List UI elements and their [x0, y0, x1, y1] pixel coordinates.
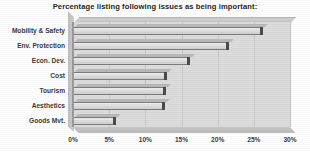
bar-end-cap-4	[163, 87, 166, 95]
y-axis-line	[72, 22, 74, 127]
bar-body-1	[73, 42, 229, 50]
x-tick-label-25: 25%	[247, 136, 260, 143]
y-category-label-1: Env. Protection	[17, 41, 65, 48]
gridline-30	[290, 22, 291, 127]
y-category-label-0: Mobility & Safety	[12, 26, 65, 33]
bar-3	[73, 72, 167, 80]
bar-end-cap-2	[187, 57, 190, 65]
bar-body-0	[73, 27, 263, 35]
y-category-label-4: Tourism	[39, 86, 65, 93]
x-tick-label-30: 30%	[283, 136, 296, 143]
gridline-20	[218, 22, 219, 127]
bar-end-cap-0	[260, 27, 263, 35]
bar-end-cap-6	[113, 117, 116, 125]
x-tick-label-10: 10%	[139, 136, 152, 143]
bar-end-cap-5	[162, 102, 165, 110]
bar-5	[73, 102, 165, 110]
bar-4	[73, 87, 166, 95]
x-tick-label-20: 20%	[211, 136, 224, 143]
bar-2	[73, 57, 190, 65]
y-category-label-2: Econ. Dev.	[32, 56, 65, 63]
bar-end-cap-1	[226, 42, 229, 50]
gridline-25	[254, 22, 255, 127]
plot-floor-face-3d	[73, 127, 295, 133]
bar-1	[73, 42, 229, 50]
bar-end-cap-3	[164, 72, 167, 80]
y-category-label-5: Aesthetics	[32, 101, 65, 108]
y-axis-category-labels: Mobility & SafetyEnv. ProtectionEcon. De…	[0, 22, 68, 127]
plot-area	[73, 22, 291, 127]
y-category-label-6: Goods Mvt.	[29, 116, 65, 123]
bar-6	[73, 117, 116, 125]
x-axis-tick-labels: 0%5%10%15%20%25%30%	[0, 136, 310, 148]
bar-body-6	[73, 117, 116, 125]
bar-body-2	[73, 57, 190, 65]
y-category-label-3: Cost	[50, 71, 65, 78]
x-tick-label-5: 5%	[104, 136, 114, 143]
bar-0	[73, 27, 263, 35]
x-tick-label-0: 0%	[68, 136, 78, 143]
bar-chart: Percentage listing following issues as b…	[0, 0, 310, 151]
bar-body-5	[73, 102, 165, 110]
bar-body-3	[73, 72, 167, 80]
gridline-15	[182, 22, 183, 127]
x-tick-label-15: 15%	[175, 136, 188, 143]
bar-body-4	[73, 87, 166, 95]
